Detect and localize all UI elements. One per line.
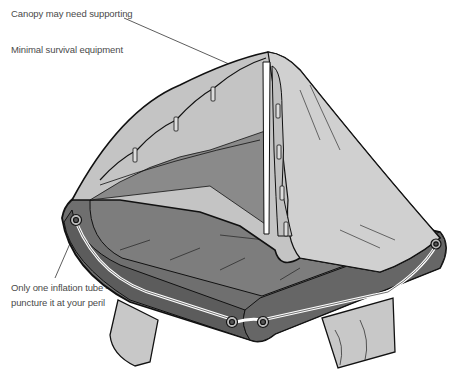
life-raft-illustration bbox=[0, 0, 461, 388]
ballast-bag-left bbox=[110, 300, 158, 366]
support-pole bbox=[263, 62, 270, 234]
